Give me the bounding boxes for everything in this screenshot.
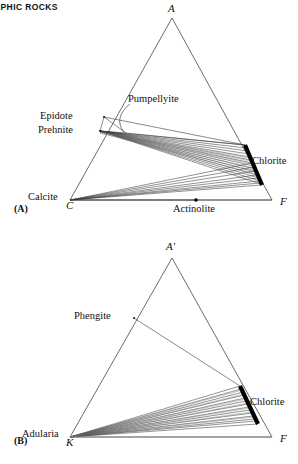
label-adularia: Adularia: [22, 428, 59, 439]
vertex-label-a-prime: A′: [166, 240, 175, 252]
epidote-point: [103, 116, 105, 118]
label-chlorite-a: Chlorite: [252, 155, 286, 166]
vertex-label-f-b: F: [280, 432, 287, 444]
vertex-label-c: C: [66, 199, 73, 211]
label-calcite: Calcite: [28, 191, 58, 202]
panel-tag-a: (A): [14, 203, 28, 214]
vertex-label-k: K: [66, 436, 73, 448]
label-phengite: Phengite: [74, 310, 111, 321]
vertex-label-f-a: F: [280, 195, 287, 207]
phengite-point: [133, 317, 135, 319]
label-pumpellyite: Pumpellyite: [128, 93, 179, 104]
panel-tag-b: (B): [14, 435, 27, 446]
label-prehnite: Prehnite: [38, 124, 73, 135]
label-epidote: Epidote: [40, 110, 73, 121]
figure-page: RPHIC ROCKS: [0, 0, 298, 464]
vertex-label-a-apex: A: [168, 2, 175, 14]
ternary-triangle-b: [70, 258, 272, 437]
tielines-calcite-chlorite: [70, 163, 261, 200]
prehnite-point: [99, 130, 101, 132]
actinolite-point: [194, 198, 198, 202]
label-chlorite-b: Chlorite: [250, 396, 284, 407]
label-actinolite: Actinolite: [173, 203, 215, 214]
